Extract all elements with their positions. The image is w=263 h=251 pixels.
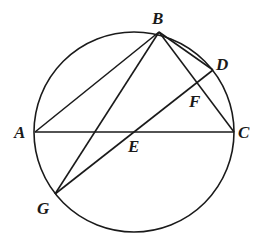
geometry-diagram: A B C D E F G: [0, 0, 263, 251]
label-E: E: [127, 137, 139, 156]
label-D: D: [215, 55, 228, 74]
segment-AB: [35, 32, 159, 132]
segment-BD: [159, 32, 213, 70]
label-F: F: [188, 92, 201, 111]
label-B: B: [151, 9, 163, 28]
label-A: A: [13, 123, 25, 142]
label-G: G: [37, 199, 50, 218]
segment-BG: [55, 32, 159, 194]
label-C: C: [238, 123, 250, 142]
